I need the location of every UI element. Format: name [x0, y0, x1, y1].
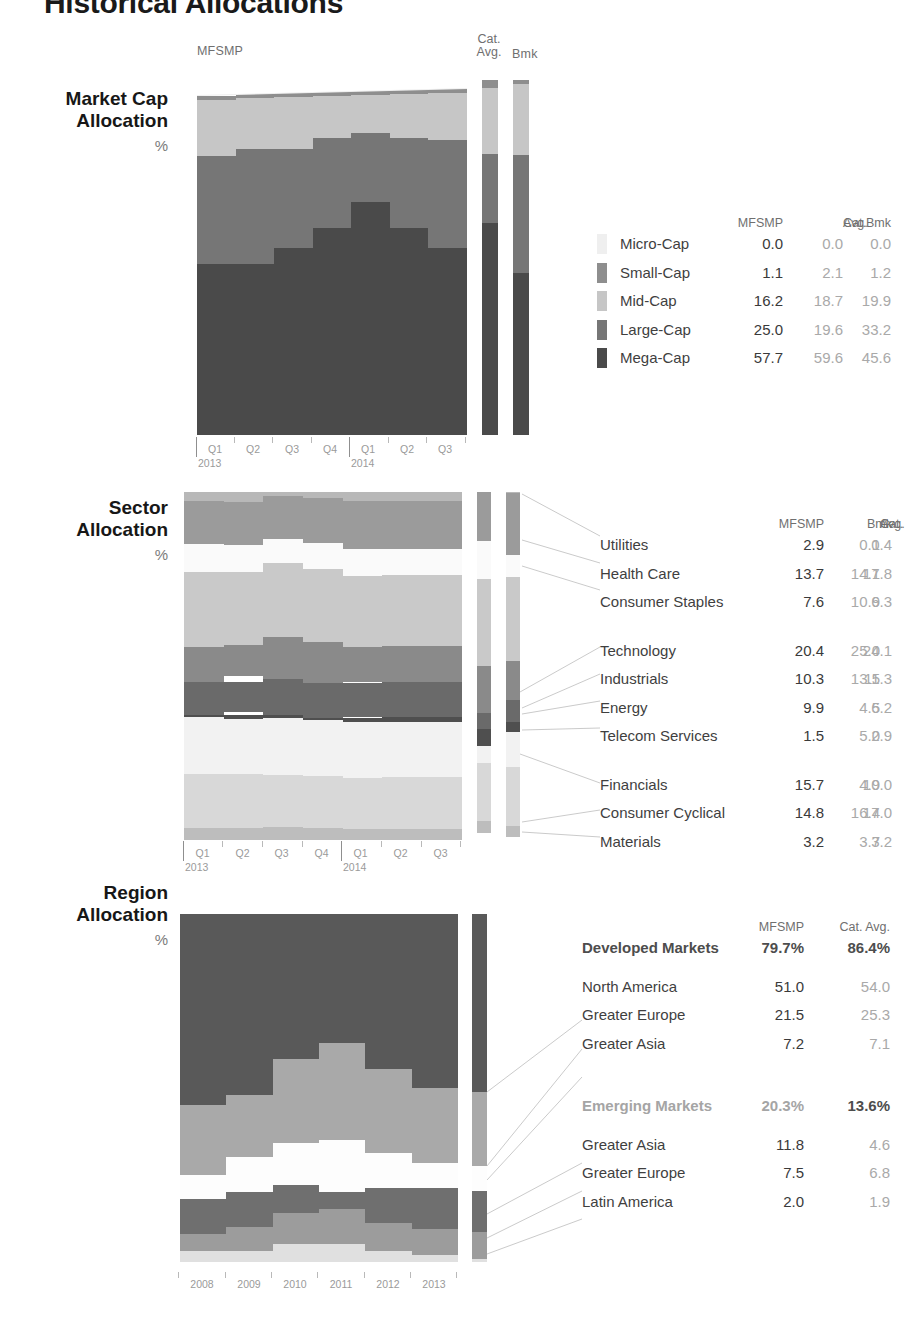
th-cat-avg: Cat. Avg. — [787, 217, 843, 230]
bar-seg-latin-america — [472, 1259, 487, 1262]
row-value-bmk: 6.3 — [852, 588, 892, 617]
market-cap-bar-header-bmk: Bmk — [512, 47, 538, 61]
axis-tick-q1-2013: Q1 — [198, 443, 232, 455]
bar-seg-mega-cap — [513, 273, 529, 435]
area-health-care — [184, 496, 462, 549]
sector-area-svg — [184, 492, 462, 840]
bar-seg-health-care — [506, 493, 520, 555]
row-label: Mid-Cap — [620, 287, 677, 316]
page-title: Historical Allocations — [44, 0, 343, 20]
bar-seg-large-cap — [513, 155, 529, 273]
row-value-bmk: 45.6 — [847, 344, 891, 373]
row-value-mfsmp: 9.9 — [762, 694, 824, 723]
table-row: Greater Asia 11.8 4.6 — [582, 1131, 892, 1160]
row-label: Health Care — [600, 560, 680, 589]
row-value-mfsmp: 0.0 — [717, 230, 783, 259]
table-row: Small-Cap 1.1 2.1 1.2 — [597, 259, 887, 288]
table-row-group-developed: Developed Markets 79.7% 86.4% — [582, 934, 892, 963]
row-label: Energy — [600, 694, 648, 723]
row-value-mfsmp: 20.3% — [734, 1092, 804, 1121]
bar-seg-industrials — [506, 661, 520, 700]
sector-unit: % — [0, 544, 168, 566]
row-value-bmk: 11.3 — [852, 665, 892, 694]
sector-legend-table: MFSMP Cat. Avg. Bmk Utilities 2.9 0.1 0.… — [600, 497, 892, 856]
axis-tick-q1-2014: Q1 — [343, 847, 378, 859]
axis-tick-q4-2013: Q4 — [313, 443, 347, 455]
row-value-bmk: 0.4 — [852, 531, 892, 560]
region-unit: % — [0, 929, 168, 951]
table-row: Greater Europe 21.5 25.3 — [582, 1001, 892, 1030]
table-row: Greater Europe 7.5 6.8 — [582, 1159, 892, 1188]
area-financials — [184, 717, 462, 778]
table-row-group-emerging: Emerging Markets 20.3% 13.6% — [582, 1092, 892, 1121]
th-bmk: Bmk — [847, 217, 891, 230]
row-value-mfsmp: 51.0 — [734, 973, 804, 1002]
row-value-mfsmp: 7.6 — [762, 588, 824, 617]
region-area-chart — [180, 914, 458, 1262]
row-value-cat-avg: 86.4% — [814, 934, 890, 963]
row-value-mfsmp: 20.4 — [762, 637, 824, 666]
bar-seg-materials — [506, 826, 520, 837]
row-value-bmk: 0.0 — [847, 230, 891, 259]
row-label: Materials — [600, 828, 661, 857]
bar-seg-mid-cap — [513, 84, 529, 155]
row-value-mfsmp: 7.2 — [734, 1030, 804, 1059]
axis-tick-2009: 2009 — [229, 1278, 269, 1290]
area-technology — [184, 563, 462, 647]
market-cap-area-chart — [197, 80, 467, 435]
table-group-spacer — [582, 963, 892, 973]
axis-year-2014: 2014 — [351, 457, 374, 469]
bar-seg-technology — [477, 579, 491, 666]
table-row: Telecom Services 1.5 5.0 2.9 — [600, 722, 892, 751]
axis-tick-q3-2013: Q3 — [275, 443, 309, 455]
region-legend-table: MFSMP Cat. Avg. Developed Markets 79.7% … — [582, 900, 892, 1216]
legend-swatch-large-cap — [597, 320, 607, 340]
axis-year-2013: 2013 — [185, 861, 208, 873]
row-value-cat-avg: 4.6 — [814, 1131, 890, 1160]
region-area-svg — [180, 914, 458, 1262]
row-value-mfsmp: 79.7% — [734, 934, 804, 963]
table-row: Consumer Cyclical 14.8 16.4 17.0 — [600, 799, 892, 828]
row-label: Utilities — [600, 531, 648, 560]
bar-seg-health-care — [477, 492, 491, 541]
row-label: Financials — [600, 771, 668, 800]
row-label: Micro-Cap — [620, 230, 689, 259]
axis-tick-q1-2014: Q1 — [351, 443, 385, 455]
bar-seg-greater-asia-em — [472, 1191, 487, 1232]
row-label: Greater Europe — [582, 1159, 685, 1188]
axis-tick-q2-2013: Q2 — [225, 847, 260, 859]
table-group-spacer — [600, 617, 892, 637]
row-value-mfsmp: 7.5 — [734, 1159, 804, 1188]
row-label: Greater Asia — [582, 1030, 665, 1059]
row-label: Small-Cap — [620, 259, 690, 288]
axis-year-2014: 2014 — [343, 861, 366, 873]
legend-swatch-small-cap — [597, 263, 607, 283]
bar-seg-large-cap — [482, 154, 498, 224]
axis-tick-2008: 2008 — [182, 1278, 222, 1290]
legend-swatch-mega-cap — [597, 348, 607, 368]
table-row: Latin America 2.0 1.9 — [582, 1188, 892, 1217]
row-value-cat-avg: 25.3 — [814, 1001, 890, 1030]
region-table-header: MFSMP Cat. Avg. — [582, 900, 892, 934]
bar-seg-telecom-services — [506, 722, 520, 732]
axis-tick-2010: 2010 — [275, 1278, 315, 1290]
axis-tick-q3-2014: Q3 — [428, 443, 462, 455]
row-label: Emerging Markets — [582, 1092, 712, 1121]
row-value-mfsmp: 1.5 — [762, 722, 824, 751]
sector-table-header: MFSMP Cat. Avg. Bmk — [600, 497, 892, 531]
row-value-mfsmp: 2.9 — [762, 531, 824, 560]
table-group-spacer — [582, 1121, 892, 1131]
bar-seg-mid-cap — [482, 88, 498, 154]
row-label: North America — [582, 973, 677, 1002]
table-group-spacer — [600, 751, 892, 771]
row-value-bmk: 19.9 — [847, 287, 891, 316]
row-value-mfsmp: 2.0 — [734, 1188, 804, 1217]
row-value-mfsmp: 10.3 — [762, 665, 824, 694]
row-value-cat-avg: 13.6% — [814, 1092, 890, 1121]
bar-seg-small-cap — [482, 80, 498, 88]
axis-tick-q2-2013: Q2 — [236, 443, 270, 455]
bar-seg-energy — [477, 713, 491, 729]
row-value-cat-avg: 2.1 — [787, 259, 843, 288]
bar-seg-consumer-staples — [506, 555, 520, 577]
row-label: Developed Markets — [582, 934, 719, 963]
